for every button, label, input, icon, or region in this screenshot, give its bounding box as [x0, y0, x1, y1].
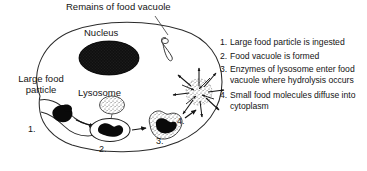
label-nucleus: Nucleus	[84, 28, 118, 39]
step-marker-1: 1.	[28, 124, 36, 134]
steps-legend: 1. Large food particle is ingested 2. Fo…	[220, 37, 367, 115]
list-item-number: 2.	[220, 51, 230, 62]
list-item-text: Enzymes of lysosome enter food vacuole w…	[230, 64, 367, 87]
list-item-text: Food vacuole is formed	[230, 51, 367, 62]
label-large-food-particle: Large food particle	[12, 73, 70, 96]
list-item-text: Large food particle is ingested	[230, 37, 367, 48]
list-item-number: 3.	[220, 64, 230, 87]
step-marker-2: 2.	[99, 144, 107, 154]
list-item: 2. Food vacuole is formed	[220, 51, 367, 62]
list-item-text: Small food molecules diffuse into cytopl…	[230, 90, 367, 113]
label-lysosome: Lysosome	[78, 88, 121, 99]
list-item-number: 4.	[220, 90, 230, 113]
figure-container: Remains of food vacuole Nucleus Lysosome…	[0, 0, 367, 171]
list-item: 3. Enzymes of lysosome enter food vacuol…	[220, 64, 367, 87]
list-item: 1. Large food particle is ingested	[220, 37, 367, 48]
list-item: 4. Small food molecules diffuse into cyt…	[220, 90, 367, 113]
label-remains-of-food-vacuole: Remains of food vacuole	[66, 2, 171, 13]
list-item-number: 1.	[220, 37, 230, 48]
step-marker-3: 3.	[156, 136, 164, 146]
food-vacuole-icon	[90, 119, 130, 142]
nucleus-icon	[79, 41, 139, 75]
step-marker-4: 4.	[177, 116, 185, 126]
